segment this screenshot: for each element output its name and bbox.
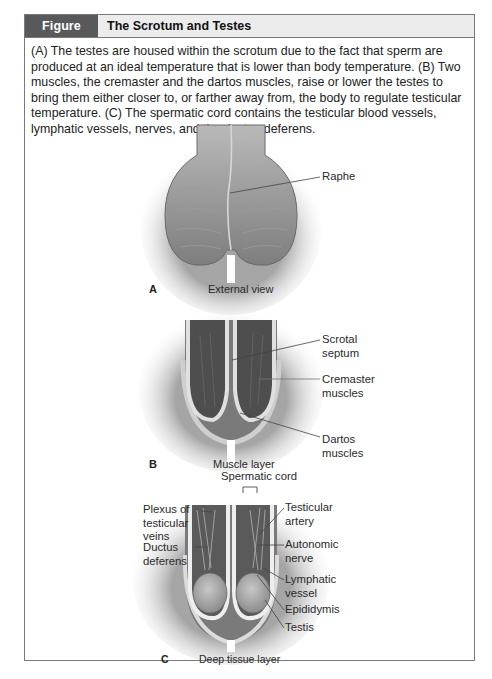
label-spermatic-cord: Spermatic cord: [221, 470, 297, 484]
panel-letter-c: C: [161, 653, 169, 665]
label-plexus-testicular-veins: Plexus of testicular veins: [143, 503, 201, 544]
figure-box: Figure 27.25 The Scrotum and Testes (A) …: [24, 14, 475, 661]
label-testis: Testis: [285, 621, 314, 635]
spermatic-cord-bracket: [243, 487, 257, 493]
label-testicular-artery: Testicular artery: [285, 501, 343, 528]
panel-c-deep-tissue-layer: Spermatic cord Plexus of testicular vein…: [25, 15, 474, 662]
label-epididymis: Epididymis: [285, 603, 340, 617]
panel-c-subtitle: Deep tissue layer: [199, 653, 280, 665]
label-lymphatic-vessel: Lymphatic vessel: [285, 573, 343, 600]
label-ductus-deferens: Ductus deferens: [143, 541, 195, 568]
testes-deep-tissue-illustration: [25, 15, 476, 662]
label-autonomic-nerve: Autonomic nerve: [285, 538, 345, 565]
